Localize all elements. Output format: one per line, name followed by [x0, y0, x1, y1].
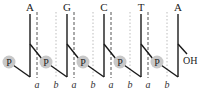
- cleavage-marker-labels: abababab: [35, 79, 170, 90]
- dna-strand-diagram: PPPPP AGCTA abababab OH: [0, 0, 204, 91]
- three-prime-terminal: OH: [178, 44, 197, 66]
- base-label: C: [100, 1, 107, 13]
- hydroxyl-label: OH: [183, 55, 197, 66]
- marker-label: a: [35, 79, 40, 90]
- base-label: T: [138, 1, 145, 13]
- marker-label: a: [109, 79, 114, 90]
- phosphodiester-bond: [50, 65, 67, 77]
- sugar-phosphate-backbone: [13, 14, 178, 77]
- marker-label: a: [146, 79, 151, 90]
- cleavage-guide-lines: [37, 12, 167, 78]
- phosphate-label: P: [6, 57, 12, 68]
- phosphodiester-bond: [141, 44, 153, 59]
- phosphodiester-bond: [30, 44, 42, 59]
- base-label: G: [63, 1, 71, 13]
- marker-label: b: [54, 79, 59, 90]
- phosphodiester-bond: [13, 65, 30, 77]
- phosphodiester-bond: [161, 65, 178, 77]
- base-label: A: [26, 1, 34, 13]
- phosphate-label: P: [43, 57, 49, 68]
- phosphate-groups: PPPPP: [3, 56, 164, 69]
- marker-label: b: [165, 79, 170, 90]
- marker-label: b: [128, 79, 133, 90]
- phosphate-label: P: [154, 57, 160, 68]
- phosphodiester-bond: [67, 44, 79, 59]
- marker-label: b: [91, 79, 96, 90]
- phosphodiester-bond: [124, 65, 141, 77]
- phosphate-label: P: [80, 57, 86, 68]
- hydroxyl-bond: [178, 44, 187, 54]
- base-label: A: [174, 1, 182, 13]
- phosphodiester-bond: [104, 44, 116, 59]
- base-labels: AGCTA: [26, 1, 182, 13]
- marker-label: a: [72, 79, 77, 90]
- phosphate-label: P: [117, 57, 123, 68]
- phosphodiester-bond: [87, 65, 104, 77]
